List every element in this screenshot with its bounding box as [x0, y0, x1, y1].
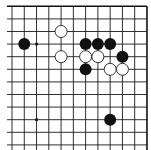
- white-stone[interactable]: [116, 63, 128, 75]
- star-point: [35, 43, 38, 46]
- white-stone[interactable]: [80, 51, 92, 63]
- white-stone[interactable]: [55, 51, 67, 63]
- white-stone[interactable]: [104, 63, 116, 75]
- black-stone[interactable]: [92, 38, 104, 50]
- black-stone[interactable]: [18, 38, 30, 50]
- white-stone[interactable]: [92, 51, 104, 63]
- star-point: [35, 118, 38, 121]
- go-board[interactable]: [0, 0, 151, 150]
- black-stone[interactable]: [80, 63, 92, 75]
- white-stone[interactable]: [55, 26, 67, 38]
- black-stone[interactable]: [80, 38, 92, 50]
- black-stone[interactable]: [104, 38, 116, 50]
- black-stone[interactable]: [104, 114, 116, 126]
- board-grid: [7, 6, 147, 150]
- black-stone[interactable]: [116, 51, 128, 63]
